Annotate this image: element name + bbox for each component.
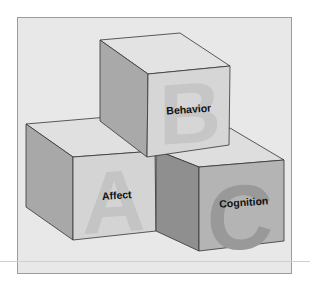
letter-c: C — [207, 164, 273, 272]
abc-blocks-diagram: A Affect C Cognition B Behavior — [0, 0, 310, 291]
letter-a: A — [82, 150, 146, 253]
affect-label: Affect — [101, 188, 132, 202]
